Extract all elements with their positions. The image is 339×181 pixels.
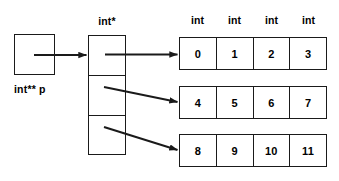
arrow-pointer-1-to-row-1 [104, 87, 178, 102]
arrow-pointer-2-to-row-2 [104, 127, 178, 150]
arrow-layer [0, 0, 339, 181]
pointer-diagram: int** p int* int int int int 0 1 2 3 4 5… [0, 0, 339, 181]
